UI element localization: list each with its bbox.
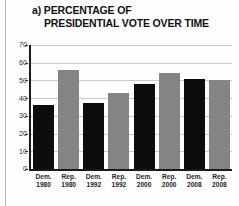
bar-rep-1980 — [58, 70, 79, 169]
y-tick-label-30: 30 — [3, 112, 27, 119]
x-label-party: Dem. — [136, 173, 152, 180]
x-label-year: 2000 — [132, 181, 157, 189]
bar-rep-1992 — [108, 93, 129, 169]
x-label-year: 1992 — [106, 181, 131, 189]
x-label-year: 1992 — [81, 181, 106, 189]
x-label-party: Rep. — [62, 173, 76, 180]
chart-title-line-1: a) PERCENTAGE OF — [32, 4, 132, 16]
x-label-dem-1992: Dem.1992 — [81, 173, 106, 190]
x-label-year: 2008 — [182, 181, 207, 189]
x-label-party: Dem. — [86, 173, 102, 180]
y-tick-label-50: 50 — [3, 77, 27, 84]
y-tick-label-60: 60 — [3, 59, 27, 66]
x-label-party: Rep. — [112, 173, 126, 180]
gridline-70 — [31, 45, 232, 46]
x-label-dem-2000: Dem.2000 — [132, 173, 157, 190]
x-label-year: 2000 — [157, 181, 182, 189]
x-label-party: Rep. — [212, 173, 226, 180]
x-label-dem-1980: Dem.1980 — [31, 173, 56, 190]
x-label-dem-2008: Dem.2008 — [182, 173, 207, 190]
gridline-60 — [31, 63, 232, 64]
x-label-rep-1992: Rep.1992 — [106, 173, 131, 190]
y-tick-mark-70 — [25, 45, 28, 46]
x-label-rep-1980: Rep.1980 — [56, 173, 81, 190]
x-label-year: 2008 — [207, 181, 232, 189]
y-tick-mark-40 — [25, 98, 28, 99]
chart-figure: a) PERCENTAGE OF PRESIDENTIAL VOTE OVER … — [0, 0, 239, 206]
bar-rep-2000 — [159, 73, 180, 169]
x-label-rep-2008: Rep.2008 — [207, 173, 232, 190]
y-tick-mark-0 — [25, 169, 28, 170]
y-tick-mark-30 — [25, 116, 28, 117]
x-axis-line — [29, 169, 232, 171]
y-tick-label-20: 20 — [3, 130, 27, 137]
x-axis-tick-labels: Dem.1980Rep.1980Dem.1992Rep.1992Dem.2000… — [31, 173, 232, 203]
plot-area — [31, 45, 232, 169]
bar-dem-2008 — [184, 79, 205, 169]
y-axis-tick-labels: 010203040506070 — [0, 45, 27, 170]
bar-dem-2000 — [134, 84, 155, 169]
x-label-rep-2000: Rep.2000 — [157, 173, 182, 190]
y-tick-mark-60 — [25, 63, 28, 64]
x-label-party: Dem. — [186, 173, 202, 180]
y-tick-label-0: 0 — [3, 165, 27, 172]
bar-rep-2008 — [209, 80, 230, 169]
y-tick-label-70: 70 — [3, 41, 27, 48]
bar-dem-1992 — [83, 103, 104, 169]
x-label-year: 1980 — [56, 181, 81, 189]
x-label-party: Dem. — [36, 173, 52, 180]
bar-dem-1980 — [33, 105, 54, 169]
x-label-year: 1980 — [31, 181, 56, 189]
y-tick-mark-10 — [25, 151, 28, 152]
chart-title-line-2: PRESIDENTIAL VOTE OVER TIME — [32, 17, 237, 30]
chart-title: a) PERCENTAGE OF PRESIDENTIAL VOTE OVER … — [32, 4, 237, 29]
y-tick-mark-50 — [25, 80, 28, 81]
y-tick-mark-20 — [25, 134, 28, 135]
x-label-party: Rep. — [162, 173, 176, 180]
y-tick-label-40: 40 — [3, 95, 27, 102]
y-tick-label-10: 10 — [3, 148, 27, 155]
